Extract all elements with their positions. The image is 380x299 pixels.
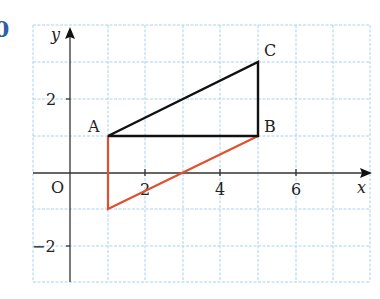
y-tick-label-2: 2 [46,90,56,109]
point-label-b: B [264,117,276,136]
y-axis-label: y [50,25,61,44]
origin-label: O [51,178,64,197]
point-label-c: C [264,41,276,60]
point-label-a: A [87,117,100,136]
x-tick-label-4: 4 [215,180,225,199]
axes [33,36,365,282]
x-axis-label: x [357,178,366,197]
coordinate-diagram: x y O 2 4 6 2 −2 A B C [0,0,380,299]
y-tick-label-neg2: −2 [32,237,56,256]
grid [33,25,370,282]
x-tick-label-6: 6 [291,180,301,199]
